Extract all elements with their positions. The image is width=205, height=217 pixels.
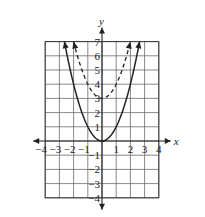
x-tick-label: −2 [64, 143, 76, 155]
x-tick-label: 4 [156, 143, 162, 155]
curve-arrowhead [135, 41, 141, 48]
x-tick-label: −4 [35, 143, 47, 155]
y-tick-label: 5 [95, 64, 101, 76]
y-tick-label: 2 [95, 107, 101, 119]
x-tick-label: 1 [113, 143, 119, 155]
x-tick-label: 2 [128, 143, 134, 155]
curve-arrowhead [63, 41, 69, 48]
y-tick-label: 4 [95, 78, 101, 90]
x-tick-label: 3 [142, 143, 148, 155]
y-tick-label: 6 [95, 50, 101, 62]
x-axis-right-arrow [165, 138, 171, 144]
y-tick-label: −2 [88, 163, 100, 175]
y-tick-label: −3 [88, 178, 100, 190]
parabola-chart: −4−3−2−112347654321−1−2−3−4 x y [0, 0, 205, 217]
y-tick-label: 7 [95, 36, 101, 48]
y-tick-label: −1 [88, 149, 100, 161]
y-tick-label: 1 [95, 121, 101, 133]
x-tick-label: −3 [50, 143, 62, 155]
y-axis-top-arrow [99, 28, 105, 34]
y-axis-bottom-arrow [99, 204, 105, 210]
axes [33, 28, 171, 210]
x-axis-label: x [173, 135, 179, 147]
tick-labels: −4−3−2−112347654321−1−2−3−4 [35, 36, 162, 204]
y-tick-label: −4 [88, 192, 100, 204]
y-axis-label: y [98, 15, 104, 27]
